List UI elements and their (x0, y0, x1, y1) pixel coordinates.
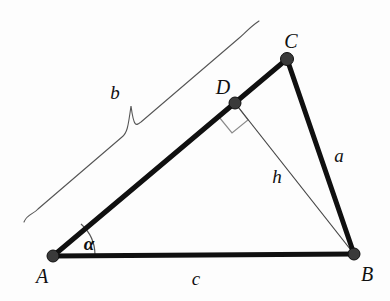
vertex-dot-a (47, 250, 59, 262)
side-c-line (53, 254, 354, 256)
vertex-label-c: C (284, 31, 297, 51)
diagram-canvas: A B C D a b c h α (0, 0, 390, 301)
side-label-a: a (334, 146, 344, 165)
vertex-label-b: B (361, 264, 373, 284)
side-b-line (53, 59, 287, 256)
altitude-line-h (235, 103, 354, 254)
vertex-dot-d (229, 97, 241, 109)
vertex-dot-c (281, 53, 294, 66)
altitude-label-h: h (272, 167, 282, 186)
side-label-b: b (110, 83, 120, 102)
side-label-c: c (192, 269, 200, 288)
angle-label-alpha: α (84, 234, 95, 253)
brace-b (24, 21, 259, 222)
vertex-label-d: D (216, 77, 230, 97)
triangle-figure (0, 0, 390, 301)
vertex-dot-b (348, 248, 360, 260)
side-a-line (287, 59, 354, 254)
vertex-label-a: A (36, 266, 48, 286)
